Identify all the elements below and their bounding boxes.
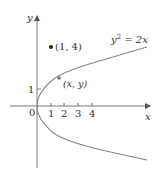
x-tick-label-3: 3: [75, 108, 81, 119]
x-tick-label-2: 2: [61, 108, 67, 119]
origin-label: 0: [29, 107, 35, 118]
point-x-y-label: (x, y): [63, 78, 87, 89]
curve-equation: y2 = 2x: [110, 33, 148, 45]
parabola-diagram: y x 0 1 2 3 4 1 (1, 4) (x, y) y2 = 2x: [0, 0, 160, 175]
point-x-y: [57, 76, 61, 80]
point-1-4: [49, 45, 53, 49]
x-tick-label-1: 1: [48, 108, 54, 119]
point-1-4-label: (1, 4): [55, 41, 82, 52]
y-axis-label: y: [26, 12, 33, 23]
x-axis-label: x: [145, 111, 151, 122]
x-tick-label-4: 4: [89, 108, 95, 119]
y-tick-label-1: 1: [28, 84, 34, 95]
